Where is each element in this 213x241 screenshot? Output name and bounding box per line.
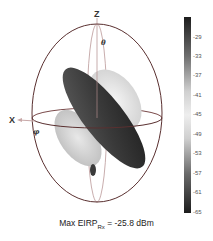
caption-subscript: Rx: [98, 224, 105, 230]
colorbar-tick: -37: [193, 72, 202, 78]
radiation-pattern-plot: [0, 0, 213, 241]
colorbar-tick: -61: [193, 189, 202, 195]
colorbar-tick: -33: [193, 53, 202, 59]
colorbar-tick: -65: [193, 209, 202, 215]
colorbar-tick: -53: [193, 150, 202, 156]
phi-label: φ: [33, 127, 39, 136]
colorbar-tick: -41: [193, 92, 202, 98]
z-axis-label: Z: [94, 9, 100, 19]
caption-value: = -25.8 dBm: [105, 218, 154, 228]
caption-prefix: Max EIRP: [59, 218, 97, 228]
colorbar: [184, 17, 192, 213]
colorbar-tick: -49: [193, 131, 202, 137]
theta-label: θ: [101, 38, 106, 47]
colorbar-tick: -45: [193, 111, 202, 117]
x-axis-label: X: [9, 115, 15, 125]
small-lobe-bottom: [90, 164, 96, 176]
max-eirp-caption: Max EIRPRx = -25.8 dBm: [0, 218, 213, 230]
colorbar-tick: -29: [193, 34, 202, 40]
colorbar-tick: -57: [193, 170, 202, 176]
